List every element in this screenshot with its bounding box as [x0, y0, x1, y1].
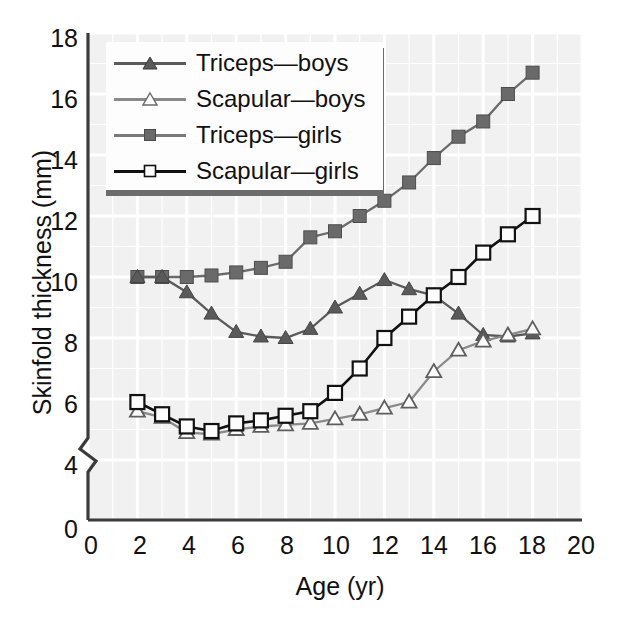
legend-label: Triceps—girls: [196, 121, 342, 149]
chart-legend: Triceps—boys Scapular—boys Triceps—girls…: [106, 42, 383, 190]
legend-swatch-open-square-icon: [114, 161, 186, 181]
legend-label: Triceps—boys: [196, 49, 348, 77]
legend-item-scapular-girls: Scapular—girls: [114, 155, 359, 187]
legend-item-triceps-girls: Triceps—girls: [114, 119, 342, 151]
legend-item-scapular-boys: Scapular—boys: [114, 83, 365, 115]
chart-figure: Skinfold thickness (mm) Age (yr) 18 16 1…: [0, 0, 627, 619]
legend-label: Scapular—girls: [196, 157, 359, 185]
legend-swatch-filled-triangle-icon: [114, 53, 186, 73]
legend-label: Scapular—boys: [196, 85, 365, 113]
legend-item-triceps-boys: Triceps—boys: [114, 47, 348, 79]
legend-swatch-open-triangle-icon: [114, 89, 186, 109]
legend-swatch-filled-square-icon: [114, 125, 186, 145]
